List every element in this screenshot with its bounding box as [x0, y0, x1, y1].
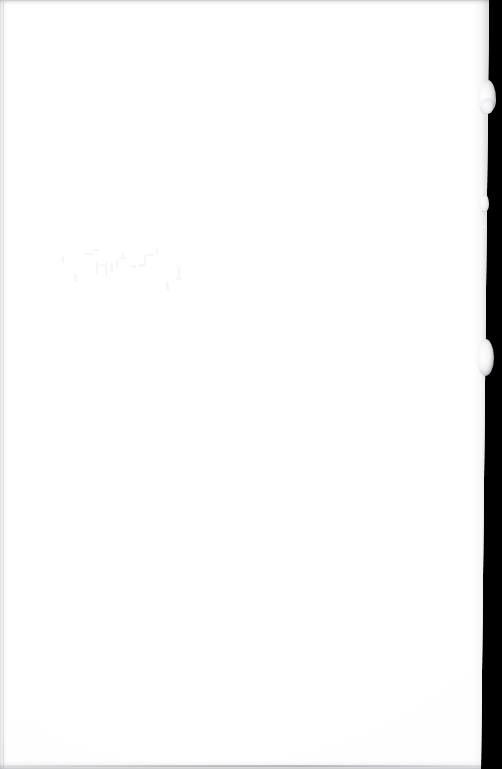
paper-edge-tuft-middle [479, 194, 489, 213]
ghost-stroke [105, 261, 107, 277]
paper-grain-texture [0, 0, 489, 769]
ghost-stroke [144, 255, 146, 266]
paper-edge-nick-upper [482, 225, 486, 228]
scanned-page-canvas: Blank scanned page [0, 0, 502, 769]
ghost-stroke [166, 282, 169, 291]
ghost-stroke [131, 265, 136, 268]
showthrough-ghosting [60, 252, 260, 312]
page-edge-shadow-top [0, 0, 489, 5]
paper-edge-tuft-lower [477, 339, 494, 376]
ghost-stroke [93, 249, 99, 251]
page-edge-line-left [3, 2, 4, 767]
ghost-stroke [116, 258, 118, 268]
paper-sheet [0, 0, 489, 769]
ghost-stroke [146, 254, 154, 256]
ghost-stroke [62, 256, 64, 263]
page-edge-line-bottom [0, 765, 489, 767]
ghost-stroke [110, 263, 113, 272]
paper-edge-nick-lower [481, 268, 484, 270]
ghost-stroke [176, 278, 182, 280]
paper-edge-tuft-upper-lobe [481, 98, 493, 114]
ghost-stroke [84, 253, 93, 255]
ghost-stroke [96, 262, 98, 274]
ghost-stroke [122, 253, 124, 259]
ghost-stroke [74, 274, 77, 282]
ghost-stroke [156, 248, 158, 254]
